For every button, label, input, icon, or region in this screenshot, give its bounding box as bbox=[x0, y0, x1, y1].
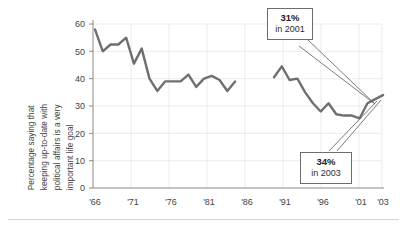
y-tick-60: 60 bbox=[75, 19, 85, 29]
y-tick-10: 10 bbox=[75, 156, 85, 166]
leader-2003-a bbox=[329, 101, 377, 151]
y-tick-40: 40 bbox=[75, 74, 85, 84]
x-tick-91: '91 bbox=[279, 197, 291, 207]
bottom-divider bbox=[8, 219, 399, 220]
x-tick-86: '86 bbox=[241, 197, 253, 207]
leader-2001-b bbox=[299, 46, 375, 104]
y-tick-30: 30 bbox=[75, 101, 85, 111]
x-tick-labels: '66 '71 '76 '81 '86 '91 '96 '01 '03 bbox=[89, 197, 389, 207]
callout-2003: 34% in 2003 bbox=[300, 152, 352, 184]
callout-leader-lines bbox=[299, 39, 381, 151]
x-tick-03: '03 bbox=[377, 197, 389, 207]
data-line-1989-2003 bbox=[274, 66, 383, 118]
callout-2001: 31% in 2001 bbox=[267, 8, 313, 40]
y-tick-0: 0 bbox=[80, 183, 85, 193]
callout-2003-label: in 2003 bbox=[307, 168, 345, 179]
callout-2001-value: 31% bbox=[274, 12, 306, 24]
x-tick-01: '01 bbox=[355, 197, 367, 207]
y-tick-marks bbox=[89, 24, 93, 188]
y-tick-labels: 60 50 40 30 20 10 0 bbox=[75, 19, 85, 193]
x-tick-81: '81 bbox=[203, 197, 215, 207]
chart-figure: Percentage saying that keeping up-to-dat… bbox=[0, 0, 407, 226]
plot-area: 60 50 40 30 20 10 0 '66 '71 '76 '81 '86 … bbox=[0, 0, 407, 226]
y-tick-20: 20 bbox=[75, 129, 85, 139]
y-tick-50: 50 bbox=[75, 47, 85, 57]
x-tick-71: '71 bbox=[127, 197, 139, 207]
y-gridlines bbox=[93, 24, 382, 161]
x-tick-76: '76 bbox=[165, 197, 177, 207]
callout-2003-value: 34% bbox=[307, 156, 345, 168]
x-tick-96: '96 bbox=[317, 197, 329, 207]
x-tick-66: '66 bbox=[89, 197, 101, 207]
leader-2001-a bbox=[307, 39, 375, 104]
data-line-1966-1984 bbox=[95, 29, 235, 91]
callout-2001-label: in 2001 bbox=[274, 24, 306, 35]
